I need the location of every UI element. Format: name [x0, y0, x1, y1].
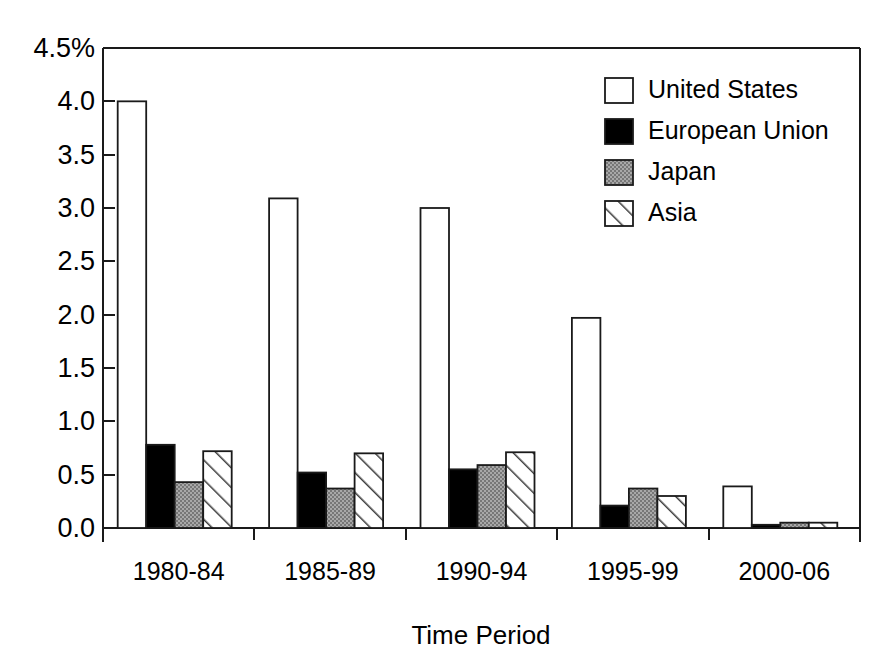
x-tick-label-0: 1980-84: [133, 557, 225, 585]
bar-1985-89-united-states: [269, 198, 298, 528]
bar-1995-99-united-states: [572, 318, 601, 528]
white-square-icon: [605, 78, 633, 103]
bar-1980-84-japan: [175, 482, 204, 528]
x-tick-label-2: 1990-94: [436, 557, 528, 585]
chart-legend: United States European Union Japan Asia: [605, 75, 829, 226]
legend-label-asia: Asia: [648, 198, 697, 226]
bar-2000-06-european-union: [752, 525, 781, 528]
y-tick-label-0: 0.0: [57, 513, 95, 543]
gray-square-icon: [605, 160, 633, 185]
y-tick-label-3: 1.5: [57, 353, 95, 383]
y-tick-label-7: 3.5: [57, 140, 95, 170]
bar-1980-84-asia: [203, 451, 232, 528]
bar-1995-99-european-union: [600, 506, 629, 528]
bar-1995-99-japan: [629, 489, 658, 528]
chart-canvas: 0.0 0.5 1.0 1.5 2.0 2.5 3.0 3.5 4.0 4.5%…: [0, 0, 894, 662]
x-axis-tick-labels: 1980-84 1985-89 1990-94 1995-99 2000-06: [133, 557, 830, 585]
bar-1985-89-asia: [355, 453, 384, 528]
legend-label-united-states: United States: [648, 75, 798, 103]
legend-label-european-union: European Union: [648, 116, 829, 144]
legend-label-japan: Japan: [648, 157, 716, 185]
bar-1990-94-united-states: [421, 208, 450, 528]
y-axis-ticks: [103, 48, 117, 528]
bar-1995-99-asia: [657, 496, 686, 528]
y-axis-tick-labels: 0.0 0.5 1.0 1.5 2.0 2.5 3.0 3.5 4.0 4.5%: [33, 33, 95, 543]
bar-1980-84-european-union: [146, 445, 175, 528]
bar-1990-94-european-union: [449, 469, 478, 528]
y-tick-label-4: 2.0: [57, 300, 95, 330]
y-tick-label-9: 4.5%: [33, 33, 95, 63]
bar-2000-06-japan: [780, 523, 809, 528]
bar-1985-89-european-union: [298, 473, 327, 528]
black-square-icon: [605, 119, 633, 144]
y-tick-label-6: 3.0: [57, 193, 95, 223]
bar-1985-89-japan: [326, 489, 355, 528]
x-axis-title: Time Period: [411, 620, 550, 650]
legend-item-european-union: European Union: [605, 116, 829, 144]
y-tick-label-8: 4.0: [57, 86, 95, 116]
bar-1990-94-asia: [506, 452, 535, 528]
legend-item-japan: Japan: [605, 157, 716, 185]
bar-2000-06-united-states: [723, 486, 752, 528]
bar-1990-94-japan: [478, 465, 507, 528]
y-tick-label-5: 2.5: [57, 246, 95, 276]
bar-chart: 0.0 0.5 1.0 1.5 2.0 2.5 3.0 3.5 4.0 4.5%…: [0, 0, 894, 662]
y-tick-label-1: 0.5: [57, 460, 95, 490]
legend-item-asia: Asia: [605, 198, 697, 226]
hatched-square-icon: [605, 201, 633, 226]
bars-layer: [118, 101, 838, 528]
x-tick-label-4: 2000-06: [738, 557, 830, 585]
bar-2000-06-asia: [809, 523, 838, 528]
x-axis-ticks: [103, 528, 860, 542]
bar-1980-84-united-states: [118, 101, 147, 528]
x-tick-label-3: 1995-99: [587, 557, 679, 585]
y-tick-label-2: 1.0: [57, 406, 95, 436]
x-tick-label-1: 1985-89: [284, 557, 376, 585]
legend-item-united-states: United States: [605, 75, 798, 103]
